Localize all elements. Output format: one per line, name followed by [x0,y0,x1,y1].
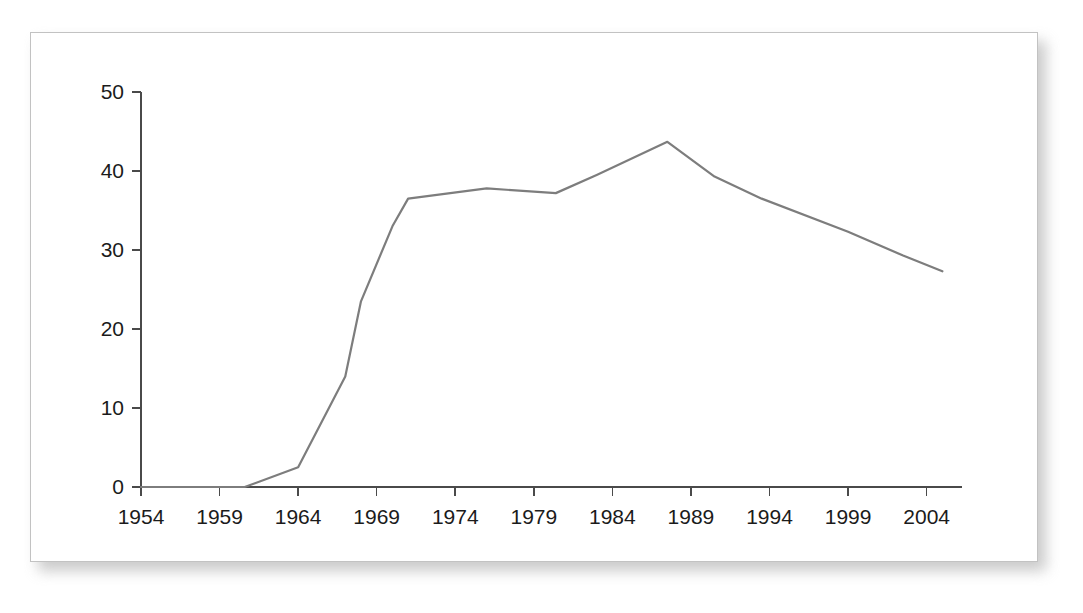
y-tick-label: 0 [64,475,124,499]
x-tick-label: 1954 [118,505,165,529]
y-tick-label: 30 [64,238,124,262]
x-tick-label: 1979 [510,505,557,529]
x-tick-label: 1959 [196,505,243,529]
x-tick-label: 1999 [825,505,872,529]
y-tick-label: 50 [64,80,124,104]
x-tick-label: 1994 [746,505,793,529]
x-tick-label: 1964 [275,505,322,529]
x-tick-label: 1974 [432,505,479,529]
x-tick-label: 1969 [353,505,400,529]
y-tick-label: 10 [64,396,124,420]
x-tick-label: 1989 [668,505,715,529]
y-tick-label: 20 [64,317,124,341]
x-tick-label: 2004 [903,505,950,529]
y-tick-label: 40 [64,159,124,183]
figure-root: 01020304050 1954195919641969197419791984… [0,0,1083,613]
x-tick-label: 1984 [589,505,636,529]
chart-panel [30,32,1038,562]
